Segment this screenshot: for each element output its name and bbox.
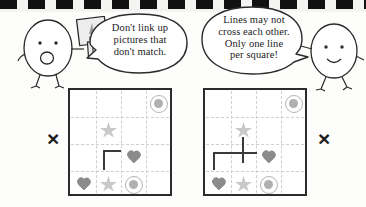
drawn-line-right-horizontal (213, 152, 257, 154)
speech-bubble-right-text: Lines may not cross each other. Only one… (205, 14, 303, 61)
heart-icon (261, 151, 276, 165)
left-mouth-open (41, 52, 54, 64)
right-eye-1 (324, 45, 327, 48)
bubble-left-line-3: don't match. (95, 46, 185, 58)
grid-left-cell-r3c3 (121, 144, 146, 171)
bubble-right-line-1: Lines may not (205, 14, 303, 26)
grid-left-cell-r1c4 (146, 90, 171, 117)
bubble-left-line-1: Don't link up (95, 22, 185, 34)
x-mark-right: × (318, 128, 330, 149)
grid-left-cell-r4c2 (96, 171, 121, 198)
right-arm-right (356, 56, 364, 60)
right-leg-1 (316, 77, 326, 91)
grid-line-h2 (71, 144, 169, 145)
left-leg-1 (31, 75, 40, 88)
drawn-line-right-stub (213, 152, 215, 170)
right-egg-body (311, 24, 357, 78)
puzzle-instruction-page: Don't link up pictures that don't match.… (0, 0, 366, 207)
bubble-left-line-2: pictures that (95, 34, 185, 46)
ring-icon (285, 95, 303, 113)
ring-icon (125, 176, 143, 194)
ring-icon (260, 176, 278, 194)
drawn-line-right-vertical (242, 137, 244, 163)
grid-right-cell-r3c3 (256, 144, 281, 171)
grid-right-lines (205, 90, 305, 194)
left-eye-1 (38, 41, 41, 44)
left-egg-body (24, 20, 72, 76)
right-leg-2 (342, 77, 352, 90)
drawn-line-left-horizontal (103, 150, 121, 152)
heart-icon (126, 151, 141, 165)
grid-line-h2 (206, 144, 304, 145)
puzzle-grid-right (203, 88, 307, 196)
right-eye-2 (340, 45, 343, 48)
grid-right-cell-r1c4 (281, 90, 306, 117)
x-mark-left: × (47, 128, 59, 149)
puzzle-grid-left (68, 88, 172, 196)
bubble-right-line-3: Only one line (205, 38, 303, 50)
heart-icon (211, 178, 226, 192)
ring-icon (150, 95, 168, 113)
left-arm-left (18, 54, 25, 61)
grid-right-cell-r4c3 (256, 171, 281, 198)
right-arm-left (301, 46, 312, 49)
star-icon (100, 176, 117, 193)
bubble-right-line-4: per square! (205, 49, 303, 61)
bubble-right-line-2: cross each other. (205, 26, 303, 38)
grid-left-lines (70, 90, 170, 194)
right-egg-character (300, 20, 366, 92)
grid-left-cell-r4c1 (71, 171, 96, 198)
drawn-line-left-vertical (103, 150, 105, 170)
grid-left-cell-r2c2 (96, 117, 121, 144)
star-icon (100, 122, 117, 139)
grid-right-cell-r4c1 (206, 171, 231, 198)
heart-icon (76, 178, 91, 192)
grid-left-cell-r4c3 (121, 171, 146, 198)
star-icon (235, 176, 252, 193)
speech-bubble-left-text: Don't link up pictures that don't match. (95, 22, 185, 57)
grid-right-cell-r4c2 (231, 171, 256, 198)
left-eye-2 (54, 41, 57, 44)
left-leg-2 (55, 75, 64, 88)
